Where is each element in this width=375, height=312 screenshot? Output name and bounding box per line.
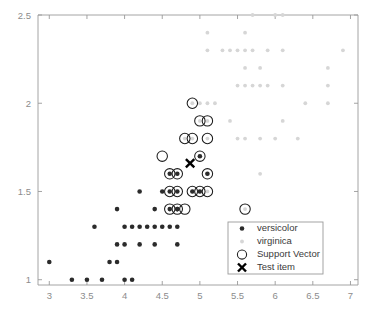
data-point-virginica: [266, 84, 270, 88]
data-point-versicolor: [198, 154, 203, 159]
data-point-virginica: [213, 101, 217, 105]
data-point-virginica: [206, 101, 210, 105]
test-item-marker: [186, 159, 194, 167]
data-point-virginica: [221, 48, 225, 52]
data-point-virginica: [281, 13, 285, 17]
scatter-plot-figure: 33.544.555.566.5711.522.5 versicolorvirg…: [0, 0, 375, 312]
data-point-versicolor: [92, 224, 97, 229]
x-tick-label: 6.5: [306, 290, 319, 301]
data-point-versicolor: [122, 224, 127, 229]
legend-label: Support Vector: [257, 248, 320, 259]
data-point-virginica: [183, 137, 187, 141]
data-point-virginica: [281, 48, 285, 52]
data-point-virginica: [266, 48, 270, 52]
data-point-virginica: [243, 48, 247, 52]
x-tick-label: 3.5: [80, 290, 93, 301]
series-versicolor-points: [47, 154, 210, 282]
data-point-virginica: [206, 190, 210, 194]
data-point-versicolor: [175, 172, 180, 177]
y-tick-label: 2: [26, 98, 31, 109]
data-point-virginica: [258, 66, 262, 70]
legend-label: Test item: [257, 261, 295, 272]
data-point-virginica: [206, 119, 210, 123]
data-point-virginica: [281, 84, 285, 88]
data-point-versicolor: [115, 260, 120, 265]
data-point-versicolor: [145, 224, 150, 229]
data-point-virginica: [198, 101, 202, 105]
data-point-versicolor: [175, 242, 180, 247]
data-point-versicolor: [152, 207, 157, 212]
data-point-versicolor: [175, 207, 180, 212]
legend[interactable]: versicolorvirginicaSupport VectorTest it…: [228, 222, 323, 274]
data-point-virginica: [341, 48, 345, 52]
data-point-virginica: [236, 48, 240, 52]
x-tick-label: 6: [273, 290, 278, 301]
data-point-versicolor: [130, 277, 135, 282]
support-vector-ring: [157, 151, 167, 161]
support-vector-ring: [180, 204, 190, 214]
data-point-virginica: [326, 66, 330, 70]
data-point-versicolor: [160, 224, 165, 229]
data-point-versicolor: [167, 224, 172, 229]
legend-marker-small-circle-icon: [240, 240, 244, 244]
data-point-versicolor: [167, 189, 172, 194]
data-point-virginica: [251, 13, 255, 17]
data-point-versicolor: [190, 189, 195, 194]
data-point-versicolor: [205, 172, 210, 177]
data-point-virginica: [228, 48, 232, 52]
data-point-virginica: [273, 137, 277, 141]
data-point-versicolor: [100, 277, 105, 282]
data-point-virginica: [281, 119, 285, 123]
data-point-virginica: [273, 13, 277, 17]
data-point-virginica: [243, 31, 247, 35]
data-point-versicolor: [115, 242, 120, 247]
data-point-virginica: [190, 137, 194, 141]
y-tick-label: 1.5: [18, 186, 31, 197]
data-point-virginica: [258, 172, 262, 176]
x-tick-label: 5: [197, 290, 202, 301]
y-tick-label: 1: [26, 274, 31, 285]
data-point-virginica: [190, 101, 194, 105]
data-point-versicolor: [175, 224, 180, 229]
data-point-virginica: [326, 84, 330, 88]
data-point-virginica: [236, 137, 240, 141]
data-point-versicolor: [167, 207, 172, 212]
data-point-virginica: [251, 48, 255, 52]
data-point-versicolor: [122, 242, 127, 247]
data-point-virginica: [236, 84, 240, 88]
data-point-versicolor: [70, 277, 75, 282]
data-point-virginica: [206, 137, 210, 141]
support-vector-markers: [157, 98, 250, 214]
data-point-virginica: [296, 137, 300, 141]
data-point-virginica: [206, 48, 210, 52]
x-tick-label: 3: [47, 290, 52, 301]
legend-marker-filled-circle-icon: [240, 226, 245, 231]
data-point-virginica: [258, 84, 262, 88]
data-point-virginica: [326, 101, 330, 105]
data-point-versicolor: [115, 207, 120, 212]
x-tick-label: 4: [122, 290, 127, 301]
data-point-versicolor: [175, 189, 180, 194]
data-point-versicolor: [160, 189, 165, 194]
x-tick-label: 4.5: [156, 290, 169, 301]
data-point-versicolor: [107, 260, 112, 265]
data-point-virginica: [303, 101, 307, 105]
data-point-virginica: [258, 137, 262, 141]
data-point-versicolor: [152, 224, 157, 229]
data-point-versicolor: [152, 242, 157, 247]
data-point-virginica: [206, 31, 210, 35]
data-point-versicolor: [85, 277, 90, 282]
data-point-versicolor: [122, 277, 127, 282]
data-point-virginica: [198, 119, 202, 123]
data-point-versicolor: [137, 224, 142, 229]
data-point-versicolor: [137, 242, 142, 247]
x-tick-label: 5.5: [231, 290, 244, 301]
y-tick-label: 2.5: [18, 10, 31, 21]
data-point-versicolor: [198, 189, 203, 194]
data-point-virginica: [243, 207, 247, 211]
data-point-virginica: [243, 84, 247, 88]
data-point-virginica: [251, 84, 255, 88]
x-tick-label: 7: [348, 290, 353, 301]
data-point-versicolor: [167, 172, 172, 177]
data-point-virginica: [228, 119, 232, 123]
